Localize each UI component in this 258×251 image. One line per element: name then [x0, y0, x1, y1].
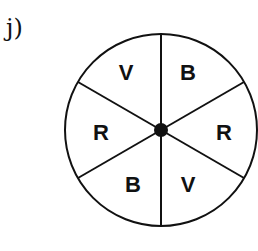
sector-label: B [125, 172, 141, 197]
sector-label: V [119, 60, 134, 85]
sector-label: V [181, 172, 196, 197]
sector-label: R [216, 120, 232, 145]
center-pivot [154, 123, 168, 137]
spinner-diagram: B R V B R V [0, 0, 258, 251]
sector-label: R [93, 120, 109, 145]
sector-label: B [180, 60, 196, 85]
